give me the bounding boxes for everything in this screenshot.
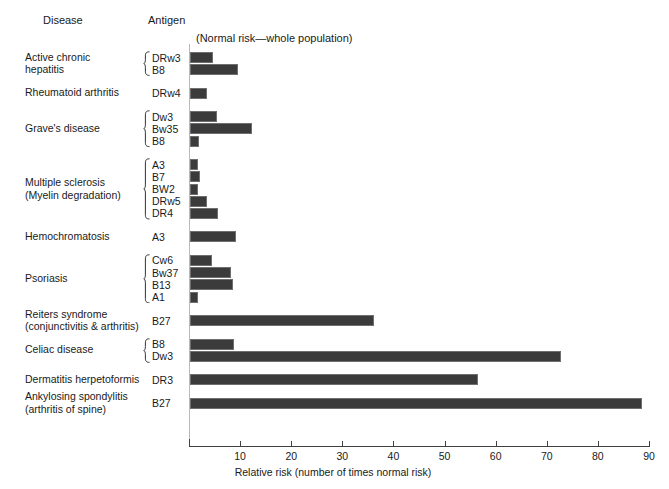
antigen-group-brace — [143, 158, 150, 220]
bar — [190, 279, 233, 290]
disease-label-line: Active chronic — [25, 51, 90, 64]
antigen-label: B8 — [152, 64, 165, 76]
antigen-label: B8 — [152, 338, 165, 350]
antigen-label: DR4 — [152, 207, 173, 219]
disease-label-line: (conjunctivitis & arthritis) — [25, 320, 139, 333]
bar — [190, 292, 198, 303]
x-axis-title: Relative risk (number of times normal ri… — [235, 466, 432, 478]
x-axis-line — [189, 446, 649, 447]
normal-risk-annotation: (Normal risk—whole population) — [196, 32, 353, 44]
disease-label: Hemochromatosis — [25, 230, 110, 243]
antigen-group-brace — [143, 338, 150, 363]
bar — [190, 52, 213, 63]
disease-label: Multiple sclerosis(Myelin degradation) — [25, 176, 121, 201]
antigen-label: Dw3 — [152, 111, 173, 123]
antigen-label: A1 — [152, 291, 165, 303]
bar — [190, 64, 238, 75]
antigen-label: B27 — [152, 315, 171, 327]
x-axis-tick — [445, 441, 446, 447]
disease-label-line: Hemochromatosis — [25, 230, 110, 243]
x-axis-tick — [393, 441, 394, 447]
x-axis-tick — [342, 441, 343, 447]
x-axis-tick — [598, 441, 599, 447]
x-axis-tick — [496, 441, 497, 447]
x-axis-tick — [240, 441, 241, 447]
bar — [190, 184, 198, 195]
bar — [190, 267, 231, 278]
disease-label: Psoriasis — [25, 272, 68, 285]
x-axis-tick-label: 30 — [336, 450, 348, 462]
disease-label-line: Multiple sclerosis — [25, 176, 121, 189]
x-axis-tick — [547, 441, 548, 447]
x-axis-tick-label: 50 — [439, 450, 451, 462]
hla-relative-risk-chart: Disease Antigen (Normal risk—whole popul… — [0, 0, 669, 489]
antigen-label: A3 — [152, 231, 165, 243]
disease-label: Celiac disease — [25, 343, 93, 356]
antigen-column-header: Antigen — [148, 14, 185, 26]
bar — [190, 208, 218, 219]
bar — [190, 339, 234, 350]
bar — [190, 88, 207, 99]
bar — [190, 111, 217, 122]
antigen-group-brace — [143, 110, 150, 147]
antigen-label: A3 — [152, 159, 165, 171]
disease-label-line: Grave's disease — [25, 122, 100, 135]
bar — [190, 315, 374, 326]
disease-label-line: (arthritis of spine) — [25, 403, 128, 416]
disease-label: Grave's disease — [25, 122, 100, 135]
disease-label-line: Ankylosing spondylitis — [25, 390, 128, 403]
bar — [190, 123, 252, 134]
antigen-label: DRw4 — [152, 87, 181, 99]
disease-label-line: Celiac disease — [25, 343, 93, 356]
disease-label: Active chronichepatitis — [25, 51, 90, 76]
disease-column-header: Disease — [43, 14, 83, 26]
disease-label-line: Dermatitis herpetoformis — [25, 373, 139, 386]
x-axis-tick-label: 10 — [234, 450, 246, 462]
x-axis-origin-tick — [189, 439, 190, 447]
antigen-label: DRw3 — [152, 52, 181, 64]
antigen-label: B13 — [152, 279, 171, 291]
disease-label: Ankylosing spondylitis(arthritis of spin… — [25, 390, 128, 415]
antigen-label: Cw6 — [152, 254, 173, 266]
antigen-label: DRw5 — [152, 195, 181, 207]
disease-label: Rheumatoid arthritis — [25, 86, 119, 99]
bar — [190, 196, 207, 207]
x-axis-tick — [649, 441, 650, 447]
antigen-group-brace — [143, 51, 150, 76]
bar — [190, 351, 561, 362]
disease-label-line: Rheumatoid arthritis — [25, 86, 119, 99]
x-axis-tick-label: 20 — [285, 450, 297, 462]
disease-label-line: Psoriasis — [25, 272, 68, 285]
x-axis-tick-label: 60 — [490, 450, 502, 462]
bar — [190, 171, 200, 182]
disease-label-line: Reiters syndrome — [25, 308, 139, 321]
x-axis-tick — [291, 441, 292, 447]
antigen-label: B8 — [152, 135, 165, 147]
x-axis-tick-label: 90 — [643, 450, 655, 462]
disease-label-line: (Myelin degradation) — [25, 189, 121, 202]
bar — [190, 231, 236, 242]
disease-label-line: hepatitis — [25, 63, 90, 76]
zero-risk-reference-line — [189, 44, 190, 446]
disease-label: Dermatitis herpetoformis — [25, 373, 139, 386]
x-axis-tick-label: 70 — [541, 450, 553, 462]
bar — [190, 374, 478, 385]
antigen-label: DR3 — [152, 374, 173, 386]
bar — [190, 159, 198, 170]
antigen-label: B27 — [152, 397, 171, 409]
antigen-label: BW2 — [152, 183, 175, 195]
antigen-label: B7 — [152, 171, 165, 183]
antigen-label: Bw35 — [152, 123, 178, 135]
x-axis-tick-label: 40 — [388, 450, 400, 462]
antigen-label: Dw3 — [152, 350, 173, 362]
x-axis-tick-label: 80 — [592, 450, 604, 462]
bar — [190, 255, 212, 266]
bar — [190, 398, 642, 409]
disease-label: Reiters syndrome(conjunctivitis & arthri… — [25, 308, 139, 333]
antigen-label: Bw37 — [152, 267, 178, 279]
antigen-group-brace — [143, 254, 150, 304]
bar — [190, 136, 199, 147]
